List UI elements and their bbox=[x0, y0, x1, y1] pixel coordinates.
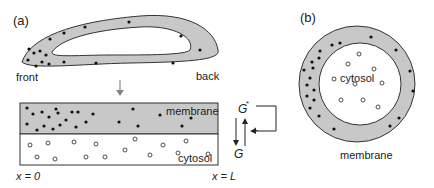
deactivation-arrow-icon bbox=[233, 118, 239, 146]
activation-cycle: G * G + bbox=[233, 99, 276, 161]
round-membrane-label: membrane bbox=[340, 149, 393, 161]
front-label: front bbox=[16, 71, 38, 83]
feedback-loop-arrow-icon bbox=[250, 106, 276, 134]
round-cell: cytosol bbox=[299, 26, 415, 142]
x-zero-label: x = 0 bbox=[15, 170, 41, 182]
panel-a-label: (a) bbox=[13, 13, 29, 28]
back-label: back bbox=[196, 70, 220, 82]
down-arrow-icon bbox=[116, 80, 124, 96]
round-cytosol-label: cytosol bbox=[340, 72, 374, 84]
g-active-superscript: * bbox=[246, 99, 249, 108]
strip-cytosol-label: cytosol bbox=[178, 152, 212, 164]
diagram-canvas: (a) front back bbox=[0, 0, 434, 188]
strip-membrane-label: membrane bbox=[166, 105, 219, 117]
g-inactive-label: G bbox=[234, 147, 243, 161]
linearized-strip: membrane cytosol bbox=[20, 103, 219, 165]
x-L-label: x = L bbox=[211, 170, 236, 182]
panel-b-label: (b) bbox=[300, 10, 316, 25]
polarized-cell bbox=[22, 15, 218, 67]
activation-arrow-icon bbox=[242, 118, 248, 146]
